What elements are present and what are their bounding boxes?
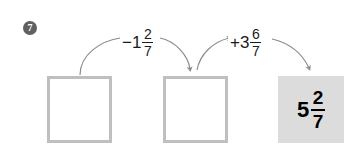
operation-sign: − — [122, 34, 132, 51]
operation-fraction: 2 7 — [142, 27, 153, 59]
problem-number-badge: 7 — [23, 21, 37, 35]
arc-add-left — [197, 38, 229, 70]
operation-sign: + — [230, 34, 240, 51]
fraction-denominator: 7 — [251, 44, 261, 58]
arc-subtract-right — [160, 38, 190, 69]
operation-whole: 3 — [240, 34, 249, 51]
operation-label-add: + 3 6 7 — [228, 27, 263, 59]
operation-label-subtract: − 1 2 7 — [120, 27, 155, 59]
arc-add-right — [272, 39, 309, 68]
answer-box-intermediate[interactable] — [163, 76, 228, 143]
answer-box-result: 5 2 7 — [278, 76, 344, 143]
fraction-denominator: 7 — [312, 112, 325, 132]
worksheet-canvas: 7 − 1 2 7 + 3 6 7 — [0, 0, 354, 151]
arc-subtract-left — [80, 38, 120, 75]
result-fraction: 2 7 — [311, 88, 325, 132]
operation-fraction: 6 7 — [250, 27, 261, 59]
result-whole: 5 — [297, 99, 309, 121]
fraction-numerator: 2 — [312, 88, 325, 108]
result-mixed-number: 5 2 7 — [297, 88, 325, 132]
answer-box-start[interactable] — [47, 76, 112, 143]
fraction-numerator: 2 — [143, 27, 153, 41]
fraction-denominator: 7 — [143, 44, 153, 58]
fraction-numerator: 6 — [251, 27, 261, 41]
operation-whole: 1 — [132, 34, 141, 51]
